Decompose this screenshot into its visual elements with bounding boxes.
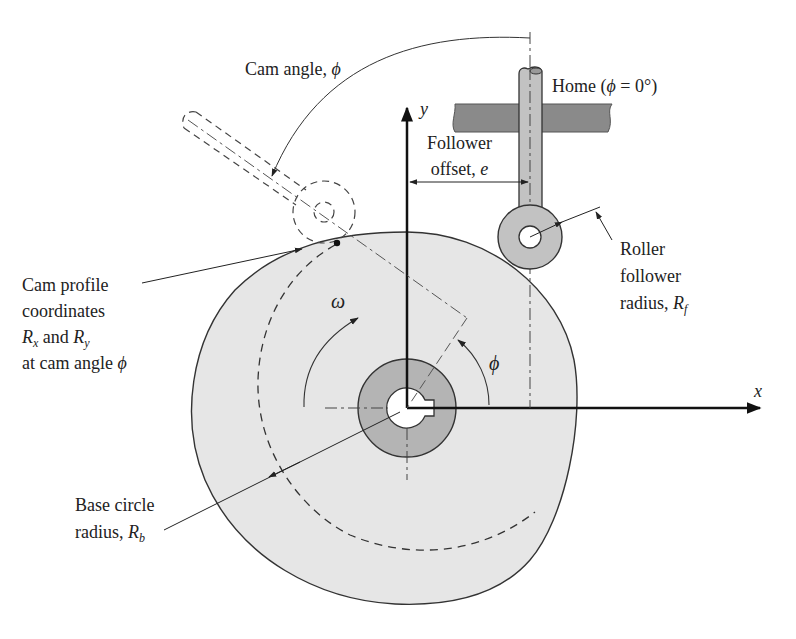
phi-symbol: ϕ: [331, 59, 340, 79]
R-symbol: R: [673, 293, 684, 313]
Ry-symbol: R: [73, 327, 84, 347]
R-symbol: R: [128, 522, 139, 542]
label-roller-radius: Roller follower radius, Rf: [620, 236, 687, 317]
follower-stem-cut: [530, 68, 542, 74]
label-x-axis: x: [754, 380, 762, 403]
label-omega: ω: [331, 290, 345, 313]
home-text: Home (: [552, 76, 606, 96]
home-text-post: = 0°): [616, 76, 657, 96]
label-cam-angle: Cam angle, ϕ: [245, 58, 341, 81]
phi-symbol: ϕ: [117, 353, 126, 373]
label-follower-offset: Follower offset, e: [427, 130, 492, 182]
phi-symbol: ϕ: [606, 76, 615, 96]
cam-angle-text: Cam angle,: [245, 59, 331, 79]
roller-line1: Roller: [620, 236, 687, 263]
cam-profile-point: [334, 240, 340, 246]
cam-profile-line1: Cam profile: [22, 272, 127, 298]
f-subscript: f: [684, 302, 687, 316]
roller-radius-extension: [562, 207, 600, 222]
label-y-axis: y: [420, 98, 428, 121]
cam-profile-line4: at cam angle: [22, 353, 117, 373]
base-circle-line1: Base circle: [75, 492, 154, 519]
and-text: and: [38, 327, 73, 347]
label-cam-profile: Cam profile coordinates Rx and Ry at cam…: [22, 272, 127, 376]
roller-line3: radius,: [620, 293, 673, 313]
follower-offset-line1: Follower: [427, 130, 492, 156]
base-circle-line2: radius,: [75, 522, 128, 542]
e-symbol: e: [480, 159, 488, 179]
cam-profile-line2: coordinates: [22, 298, 127, 324]
Rx-symbol: R: [22, 327, 33, 347]
roller-line2: follower: [620, 263, 687, 290]
roller-radius-leader: [596, 212, 612, 240]
y-subscript: y: [84, 336, 89, 350]
label-home: Home (ϕ = 0°): [552, 75, 657, 98]
label-phi: ϕ: [489, 352, 499, 375]
follower-offset-line2: offset,: [431, 159, 481, 179]
b-subscript: b: [139, 531, 145, 545]
label-base-circle: Base circle radius, Rb: [75, 492, 154, 546]
